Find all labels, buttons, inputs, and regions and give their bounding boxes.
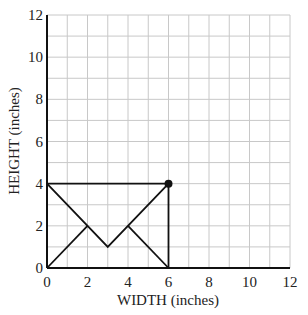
y-tick-label: 10	[28, 49, 43, 65]
x-tick-label: 6	[165, 274, 173, 290]
y-tick-label: 6	[36, 134, 44, 150]
y-tick-label: 0	[36, 260, 44, 276]
y-tick-label: 2	[36, 218, 44, 234]
x-tick-label: 8	[205, 274, 213, 290]
envelope-chart: 024681012024681012 WIDTH (inches) HEIGHT…	[0, 0, 308, 315]
x-tick-label: 4	[124, 274, 132, 290]
x-axis-label: WIDTH (inches)	[117, 292, 219, 309]
y-tick-label: 12	[28, 7, 43, 23]
y-tick-label: 8	[36, 91, 44, 107]
x-tick-label: 2	[84, 274, 92, 290]
y-axis-label: HEIGHT (inches)	[6, 87, 23, 195]
tick-labels: 024681012024681012	[28, 7, 298, 290]
x-tick-label: 10	[242, 274, 257, 290]
x-tick-label: 0	[43, 274, 51, 290]
highlighted-point	[165, 180, 173, 188]
x-tick-label: 12	[283, 274, 298, 290]
y-tick-label: 4	[36, 176, 44, 192]
